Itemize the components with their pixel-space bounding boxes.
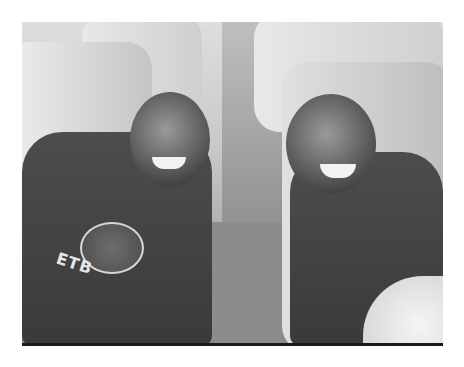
left-person-head: [130, 92, 210, 187]
right-person-head: [286, 94, 376, 194]
left-person: ETB: [22, 22, 222, 346]
photo: ETB: [22, 22, 443, 346]
photo-bottom-border: [22, 343, 443, 346]
